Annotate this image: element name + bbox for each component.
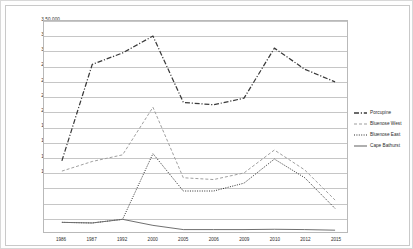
stray-mark bbox=[376, 133, 377, 135]
x-axis-tick-label: 2000 bbox=[148, 237, 158, 242]
legend-label: Porcupine bbox=[370, 110, 391, 115]
legend-item-bluenose-west[interactable]: Bluenose West bbox=[354, 118, 413, 129]
legend-swatch-icon bbox=[354, 132, 367, 138]
x-axis-tick-label: 1987 bbox=[86, 237, 96, 242]
x-axis-tick-label: 2015 bbox=[331, 237, 341, 242]
legend-label: Cape Bathurst bbox=[370, 143, 400, 148]
plot-area bbox=[43, 20, 348, 233]
x-axis-tick-label: 2006 bbox=[209, 237, 219, 242]
chart-legend: PorcupineBluenose WestBluenose EastCape … bbox=[354, 107, 413, 151]
series-line-porcupine bbox=[62, 36, 335, 161]
legend-swatch-icon bbox=[354, 143, 367, 149]
legend-item-cape-bathurst[interactable]: Cape Bathurst bbox=[354, 140, 413, 151]
x-axis-tick-label: 2012 bbox=[300, 237, 310, 242]
legend-swatch-icon bbox=[354, 110, 367, 116]
screenshot-frame: 25,00050,00075,0001,00,0001,25,0001,50,0… bbox=[0, 0, 413, 249]
x-axis-tick-label: 2009 bbox=[239, 237, 249, 242]
legend-label: Bluenose West bbox=[370, 121, 401, 126]
x-axis-tick-label: 2010 bbox=[270, 237, 280, 242]
chart-card: 25,00050,00075,0001,00,0001,25,0001,50,0… bbox=[5, 5, 410, 246]
series-line-bluenose-west bbox=[62, 107, 335, 200]
x-axis-tick-label: 1986 bbox=[56, 237, 66, 242]
legend-item-bluenose-east[interactable]: Bluenose East bbox=[354, 129, 413, 140]
series-line-bluenose-east bbox=[62, 154, 335, 223]
legend-label: Bluenose East bbox=[370, 132, 400, 137]
legend-item-porcupine[interactable]: Porcupine bbox=[354, 107, 413, 118]
legend-swatch-icon bbox=[354, 121, 367, 127]
x-axis-tick-label: 1992 bbox=[117, 237, 127, 242]
x-axis-tick-label: 2005 bbox=[178, 237, 188, 242]
series-line-cape-bathurst bbox=[62, 219, 335, 230]
series-lines bbox=[44, 21, 347, 232]
